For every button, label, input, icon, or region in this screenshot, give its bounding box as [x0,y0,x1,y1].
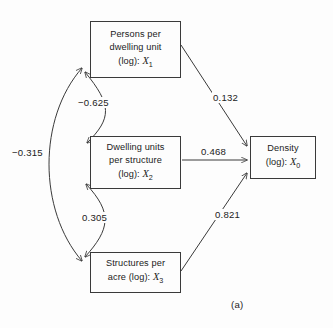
node-x1-log-prefix: (log): [118,56,142,66]
node-x0-subscript: 0 [296,162,300,171]
node-x3-line-2: acre (log): X3 [108,270,163,287]
node-x3-line-1: Structures per [106,257,165,270]
node-x0-line-1: Density [267,142,298,155]
coefficient-label-x1-x3: −0.315 [11,147,44,158]
node-x2-variable: X2 [142,168,152,179]
node-density: Density (log): X0 [250,136,316,179]
node-x2-line-3: (log): X2 [118,167,153,184]
node-x3-log-prefix: acre (log): [108,272,153,282]
node-x0-line-2: (log): X0 [266,155,301,172]
node-x2-subscript: 2 [149,173,153,182]
coefficient-label-x2-x0: 0.468 [200,146,227,157]
node-x2-log-prefix: (log): [118,169,142,179]
node-x3-variable: X3 [153,271,163,282]
node-x3-subscript: 3 [159,277,163,286]
edge-x3-x0 [181,173,247,271]
node-dwelling-units-per-structure: Dwelling units per structure (log): X2 [90,136,181,189]
node-x1-line-2: dwelling unit [110,41,162,54]
coefficient-label-x3-x0: 0.821 [214,209,241,220]
node-x0-log-prefix: (log): [266,157,290,167]
path-diagram-figure: Persons per dwelling unit (log): X1 Dwel… [0,0,333,328]
node-persons-per-dwelling-unit: Persons per dwelling unit (log): X1 [90,21,181,78]
node-x2-line-2: per structure [109,154,162,167]
node-x0-variable: X0 [290,156,300,167]
figure-caption: (a) [231,299,243,310]
coefficient-label-x1-x2: −0.625 [77,97,110,108]
node-x1-line-3: (log): X1 [118,54,153,71]
node-x1-subscript: 1 [149,60,153,69]
coefficient-label-x1-x0: 0.132 [212,92,239,103]
node-x2-line-1: Dwelling units [106,141,164,154]
node-structures-per-acre: Structures per acre (log): X3 [90,252,181,293]
node-x1-line-1: Persons per [110,28,161,41]
node-x1-variable: X1 [142,55,152,66]
coefficient-label-x2-x3: 0.305 [81,212,108,223]
